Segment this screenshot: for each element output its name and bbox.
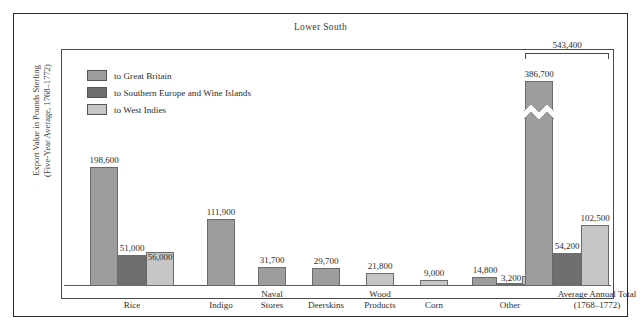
bar-avg-total-southern-europe[interactable] (553, 253, 581, 286)
bar-rice-great-britain[interactable] (90, 167, 118, 286)
category-label-average-annual-total: Average Annual Total (1768–1772) (512, 289, 643, 311)
bar-value-avg-total-great-britain: 386,700 (509, 69, 569, 79)
bar-indigo-great-britain[interactable] (207, 219, 235, 286)
bracket-top-line (525, 53, 609, 54)
bar-value-rice-great-britain: 198,600 (74, 155, 134, 165)
bar-corn-west-indies[interactable] (420, 280, 448, 286)
bar-value-avg-total-west-indies: 102,500 (565, 213, 625, 223)
bar-value-indigo-great-britain: 111,900 (191, 207, 251, 217)
bar-value-deerskins-great-britain: 29,700 (296, 256, 356, 266)
bar-avg-total-west-indies[interactable] (581, 225, 609, 286)
figure-frame: Lower South Export Value in Pounds Sterl… (13, 13, 628, 317)
grand-total-bracket (525, 53, 609, 60)
grand-total-value: 543,400 (537, 40, 597, 50)
chart-title: Lower South (14, 22, 627, 32)
bar-deerskins-great-britain[interactable] (312, 268, 340, 286)
plot-panel: to Great Britain to Southern Europe and … (61, 49, 614, 299)
y-axis-title: Export Value in Pounds Sterling (Five-Ye… (31, 33, 52, 208)
bar-value-naval-stores-great-britain: 31,700 (242, 255, 302, 265)
bar-value-wood-products-west-indies: 21,800 (350, 261, 410, 271)
bar-avg-total-great-britain[interactable] (525, 81, 553, 286)
bar-other-southern-europe[interactable] (497, 283, 522, 286)
bracket-tick-right (608, 53, 609, 59)
category-label-corn: Corn (394, 300, 474, 311)
category-label-rice: Rice (92, 300, 172, 311)
bar-wood-products-west-indies[interactable] (366, 273, 394, 286)
bar-value-rice-west-indies: 56,000 (130, 252, 190, 262)
bracket-tick-left (525, 53, 526, 59)
bar-naval-stores-great-britain[interactable] (258, 267, 286, 286)
plot-area: 198,600 51,000 56,000 Rice 111,900 Indig… (62, 50, 613, 298)
